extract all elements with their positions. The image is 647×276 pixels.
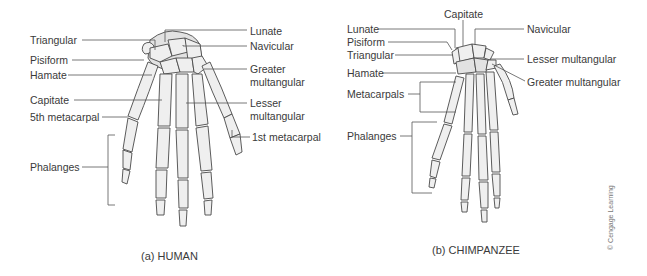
label-navicular: Navicular [250, 40, 294, 52]
label-metacarpals: Metacarpals [347, 88, 404, 100]
label-pisiform: Pisiform [30, 54, 68, 66]
label-phalanges: Phalanges [30, 161, 80, 173]
copyright-credit: © Cengage Learning [607, 185, 614, 250]
label-phalanges: Phalanges [347, 130, 397, 142]
label-pisiform: Pisiform [347, 36, 385, 48]
hand-skeleton-illustrations [0, 0, 647, 276]
label-hamate: Hamate [30, 69, 67, 81]
label-triangular: Triangular [347, 49, 394, 61]
label-lunate: Lunate [347, 23, 379, 35]
label-lesser-multangular-line1: Lesser [250, 97, 282, 109]
label-greater-multangular: Greater multangular [527, 76, 620, 88]
label-1st-metacarpal: 1st metacarpal [252, 131, 321, 143]
label-greater-multangular-line1: Greater [250, 63, 286, 75]
caption-chimpanzee: (b) CHIMPANZEE [432, 244, 520, 256]
label-lunate: Lunate [250, 25, 282, 37]
caption-human: (a) HUMAN [141, 250, 198, 262]
label-capitate: Capitate [30, 94, 69, 106]
label-navicular: Navicular [527, 23, 571, 35]
label-5th-metacarpal: 5th metacarpal [30, 111, 99, 123]
label-lesser-multangular: Lesser multangular [527, 53, 616, 65]
label-hamate: Hamate [347, 67, 384, 79]
label-triangular: Triangular [30, 34, 77, 46]
label-capitate: Capitate [444, 8, 483, 20]
label-greater-multangular-line2: multangular [250, 76, 305, 88]
label-lesser-multangular-line2: multangular [250, 110, 305, 122]
